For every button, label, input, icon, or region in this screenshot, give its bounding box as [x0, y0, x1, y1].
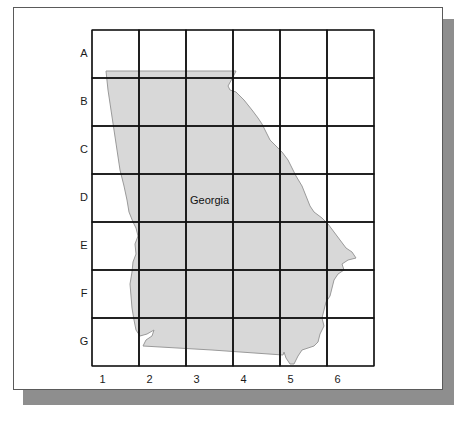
grid-cell-A1[interactable]: [92, 30, 139, 78]
column-label: 2: [140, 373, 160, 385]
grid-cell-B5[interactable]: [280, 78, 327, 126]
grid-cell-E1[interactable]: [92, 222, 139, 270]
grid-cell-D6[interactable]: [327, 174, 374, 222]
row-label: B: [79, 95, 89, 107]
grid-cell-A4[interactable]: [233, 30, 280, 78]
grid-cell-F6[interactable]: [327, 270, 374, 318]
column-label: 5: [281, 373, 301, 385]
grid-cell-B1[interactable]: [92, 78, 139, 126]
grid-cell-A5[interactable]: [280, 30, 327, 78]
grid-cell-F1[interactable]: [92, 270, 139, 318]
grid-cell-F3[interactable]: [186, 270, 233, 318]
grid-cell-F5[interactable]: [280, 270, 327, 318]
grid-cell-C1[interactable]: [92, 126, 139, 174]
column-label: 4: [234, 373, 254, 385]
row-label: G: [79, 335, 89, 347]
grid-cell-D1[interactable]: [92, 174, 139, 222]
row-label: A: [79, 47, 89, 59]
grid-cell-C6[interactable]: [327, 126, 374, 174]
column-label: 3: [187, 373, 207, 385]
grid-cell-G5[interactable]: [280, 318, 327, 366]
row-label: F: [79, 287, 89, 299]
grid-cell-B6[interactable]: [327, 78, 374, 126]
grid-cell-B2[interactable]: [139, 78, 186, 126]
grid-cell-E3[interactable]: [186, 222, 233, 270]
grid-cell-C3[interactable]: [186, 126, 233, 174]
grid-cell-D2[interactable]: [139, 174, 186, 222]
grid-cell-A6[interactable]: [327, 30, 374, 78]
grid-cell-G1[interactable]: [92, 318, 139, 366]
column-label: 1: [93, 373, 113, 385]
grid-cell-E2[interactable]: [139, 222, 186, 270]
grid-cell-C2[interactable]: [139, 126, 186, 174]
column-label: 6: [328, 373, 348, 385]
grid-cell-G6[interactable]: [327, 318, 374, 366]
grid-cell-A3[interactable]: [186, 30, 233, 78]
grid-cell-B4[interactable]: [233, 78, 280, 126]
grid-cell-C4[interactable]: [233, 126, 280, 174]
row-label: C: [79, 143, 89, 155]
grid-cell-F4[interactable]: [233, 270, 280, 318]
grid-cell-D5[interactable]: [280, 174, 327, 222]
grid-cell-A2[interactable]: [139, 30, 186, 78]
grid-cell-E6[interactable]: [327, 222, 374, 270]
grid-cell-G3[interactable]: [186, 318, 233, 366]
grid-cell-C5[interactable]: [280, 126, 327, 174]
row-label: E: [79, 239, 89, 251]
row-label: D: [79, 191, 89, 203]
grid-cell-G2[interactable]: [139, 318, 186, 366]
map-canvas: [0, 0, 467, 426]
grid-cell-G4[interactable]: [233, 318, 280, 366]
grid-cell-E4[interactable]: [233, 222, 280, 270]
grid-cell-E5[interactable]: [280, 222, 327, 270]
state-label: Georgia: [190, 194, 229, 206]
grid-cell-B3[interactable]: [186, 78, 233, 126]
grid-cell-D4[interactable]: [233, 174, 280, 222]
grid-cell-F2[interactable]: [139, 270, 186, 318]
